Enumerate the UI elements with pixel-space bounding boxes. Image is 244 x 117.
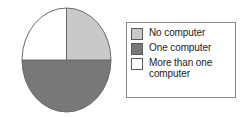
pie-slice-more-than-one-computer[interactable] bbox=[22, 8, 67, 60]
pie-slice-one-computer[interactable] bbox=[22, 60, 111, 112]
pie-slice-no-computer[interactable] bbox=[67, 8, 112, 60]
legend-label-one-computer: One computer bbox=[149, 42, 211, 53]
pie-chart-figure: No computer One computer More than one c… bbox=[0, 0, 244, 117]
legend-label-no-computer: No computer bbox=[149, 27, 205, 38]
legend-item[interactable]: More than one computer bbox=[131, 57, 232, 79]
pie-chart bbox=[21, 7, 112, 113]
legend-label-more-than-one-computer: More than one computer bbox=[149, 57, 212, 79]
legend-swatch-one-computer bbox=[131, 43, 143, 55]
legend: No computer One computer More than one c… bbox=[126, 22, 236, 98]
legend-swatch-no-computer bbox=[131, 28, 143, 40]
legend-swatch-more-than-one-computer bbox=[131, 58, 143, 70]
legend-item[interactable]: No computer bbox=[131, 27, 232, 40]
pie-chart-svg bbox=[21, 7, 112, 113]
legend-item[interactable]: One computer bbox=[131, 42, 232, 55]
